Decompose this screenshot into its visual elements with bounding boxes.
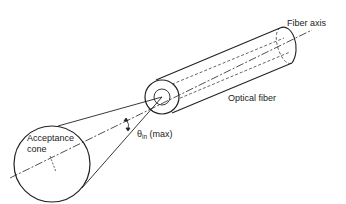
optical-fiber-label: Optical fiber xyxy=(228,93,276,103)
acceptance-cone-label-line2: cone xyxy=(27,144,47,154)
theta-in-max-label: θin (max) xyxy=(137,129,173,140)
fiber-axis-label: Fiber axis xyxy=(287,18,327,28)
fiber-diagram: Fiber axis Optical fiber Acceptance cone… xyxy=(0,0,346,204)
fiber-axis-line xyxy=(10,30,312,178)
acceptance-cone-label-line1: Acceptance xyxy=(27,133,74,143)
